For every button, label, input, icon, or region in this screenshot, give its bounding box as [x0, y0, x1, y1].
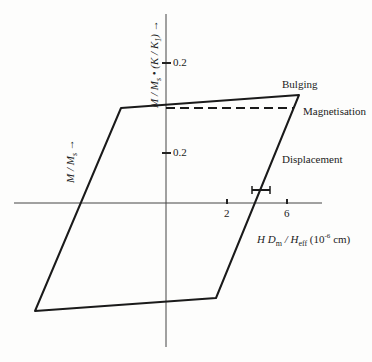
tick-label-x-6: 6 [284, 207, 290, 219]
x-axis-label: H Dm / Heff (10-6 cm) [257, 232, 350, 248]
y-upper-main: M / M [148, 81, 160, 108]
y-lower-main: M / M [64, 156, 76, 183]
y-upper-rest: • (K / K [148, 42, 160, 78]
annotation-bulging: Bulging [282, 78, 317, 90]
annotation-magnetisation: Magnetisation [303, 105, 366, 117]
x-label-sub2: eff [298, 239, 307, 248]
tick-label-lower: 0.2 [173, 146, 187, 158]
x-label-unit-post: cm) [330, 233, 350, 245]
y-upper-sub2: 1 [154, 38, 163, 42]
y-axis-upper-label: M / Ms • (K / K1) → [148, 20, 163, 108]
x-label-main: H D [257, 233, 276, 245]
y-lower-arrow-icon: → [64, 139, 76, 150]
x-label-unit-pre: (10 [307, 233, 324, 245]
tick-label-upper: 0.2 [173, 56, 187, 68]
annotation-displacement: Displacement [282, 153, 342, 165]
y-lower-sub: s [70, 153, 79, 156]
diagram-graphics [0, 0, 372, 362]
x-label-mid: / H [282, 233, 299, 245]
tick-label-x-2: 2 [224, 207, 230, 219]
y-upper-sub: s [154, 78, 163, 81]
y-upper-end: ) → [148, 20, 160, 37]
hysteresis-diagram: 0.2 0.2 2 6 Bulging Magnetisation Displa… [0, 0, 372, 362]
y-axis-lower-label: M / Ms → [64, 139, 79, 183]
